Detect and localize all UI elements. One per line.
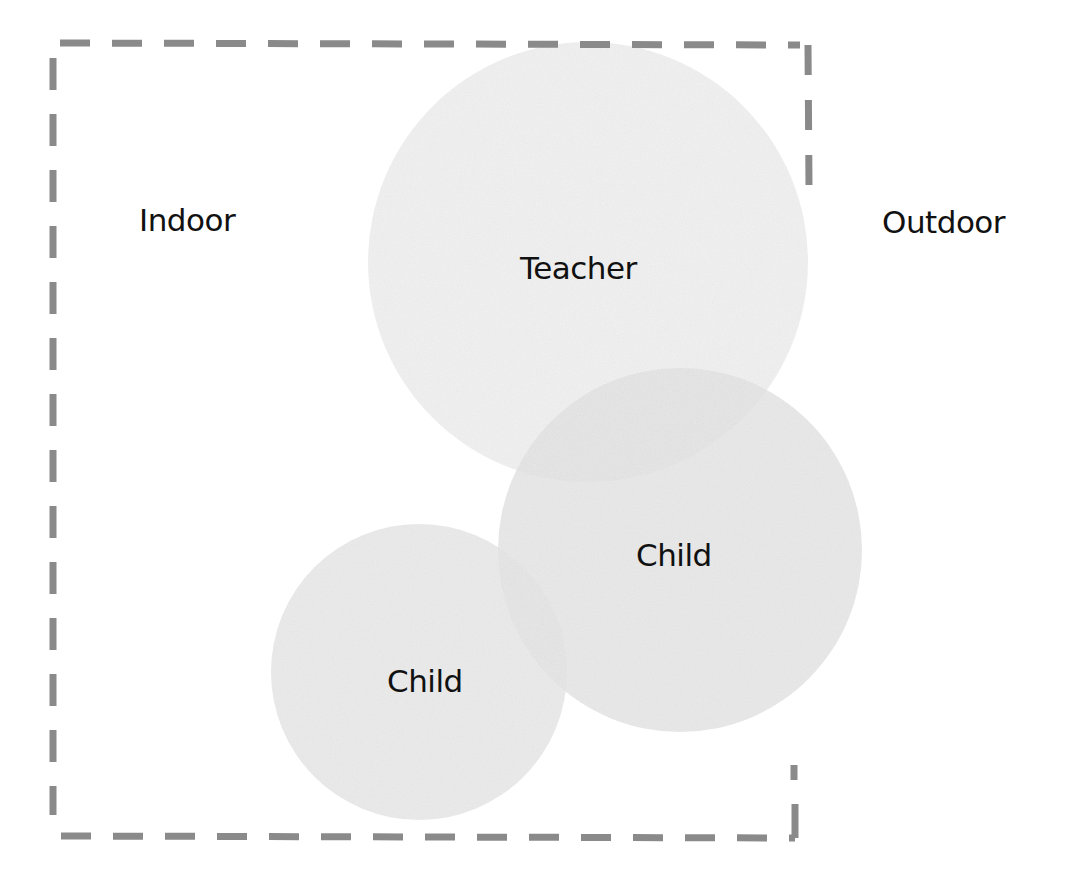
boundary-right-top: [808, 45, 809, 186]
diagram-graphics: [0, 0, 1065, 872]
boundary-top: [60, 43, 800, 45]
boundary-bottom: [61, 836, 795, 838]
child-label-right: Child: [636, 540, 712, 571]
teacher-label: Teacher: [520, 253, 637, 284]
child-label-left: Child: [387, 666, 463, 697]
outdoor-label: Outdoor: [882, 207, 1005, 238]
indoor-label: Indoor: [139, 205, 235, 236]
diagram-canvas: Indoor Outdoor Teacher Child Child: [0, 0, 1065, 872]
